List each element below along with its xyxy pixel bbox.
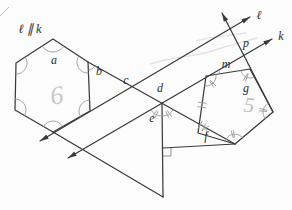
base-segment bbox=[163, 144, 235, 148]
label-angle-a: a bbox=[51, 53, 57, 67]
line-k bbox=[68, 39, 272, 158]
label-point-p: p bbox=[242, 36, 249, 50]
altitude-segment bbox=[162, 103, 163, 197]
right-angle-mark bbox=[163, 148, 171, 156]
parallel-lines-polygon-diagram: ℓ ∥ k a b c d e f g m p ℓ k 6 5 bbox=[0, 0, 292, 210]
label-angle-d: d bbox=[157, 81, 164, 95]
label-angle-m: m bbox=[222, 57, 231, 71]
hypotenuse-segment bbox=[53, 132, 163, 197]
label-line-k: k bbox=[278, 29, 284, 43]
label-angle-c: c bbox=[123, 73, 129, 87]
line-l bbox=[40, 17, 250, 141]
pencil-five: 5 bbox=[243, 93, 256, 118]
label-line-l: ℓ bbox=[257, 8, 262, 22]
label-angle-e: e bbox=[149, 111, 155, 125]
parallel-statement: ℓ ∥ k bbox=[18, 22, 41, 36]
geometry-worksheet: ℓ ∥ k a b c d e f g m p ℓ k 6 5 bbox=[0, 0, 292, 210]
pentagon bbox=[198, 69, 273, 144]
stray-mark bbox=[0, 7, 9, 16]
pencil-six: 6 bbox=[48, 80, 65, 111]
label-angle-b: b bbox=[96, 64, 102, 78]
